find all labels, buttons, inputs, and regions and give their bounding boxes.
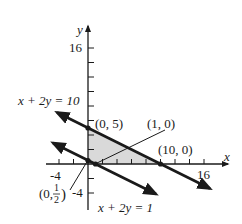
svg-text:1: 1 xyxy=(54,182,59,193)
point-0-5 xyxy=(85,125,90,130)
svg-text:2: 2 xyxy=(54,194,59,205)
x-tick-label-16: 16 xyxy=(197,167,211,182)
point-10-0 xyxy=(158,161,163,166)
point-0-half xyxy=(85,158,90,163)
x-axis-label: x xyxy=(223,149,230,164)
x-tick-label-neg4: -4 xyxy=(50,168,61,183)
y-axis-label: y xyxy=(75,22,83,37)
y-tick-label-neg4: -4 xyxy=(72,185,83,200)
y-tick-label-16: 16 xyxy=(69,40,83,55)
label-point-1-0: (1, 0) xyxy=(147,116,175,131)
label-x-plus-2y-eq-1: x + 2y = 1 xyxy=(97,200,153,215)
svg-text:): ) xyxy=(61,186,66,203)
x-ticks xyxy=(59,159,204,164)
label-x-plus-2y-eq-10: x + 2y = 10 xyxy=(17,93,80,108)
label-point-10-0: (10, 0) xyxy=(158,142,193,157)
y-ticks xyxy=(88,48,94,193)
diagram-canvas: y x 16 -4 -4 16 x + 2y = 10 x + 2y = 1 (… xyxy=(0,0,242,224)
label-point-0-5: (0, 5) xyxy=(95,116,123,131)
label-point-0-half: ( (0, 1 2 ) xyxy=(39,182,66,205)
point-1-0 xyxy=(93,161,98,166)
svg-text:(0,: (0, xyxy=(39,186,53,201)
